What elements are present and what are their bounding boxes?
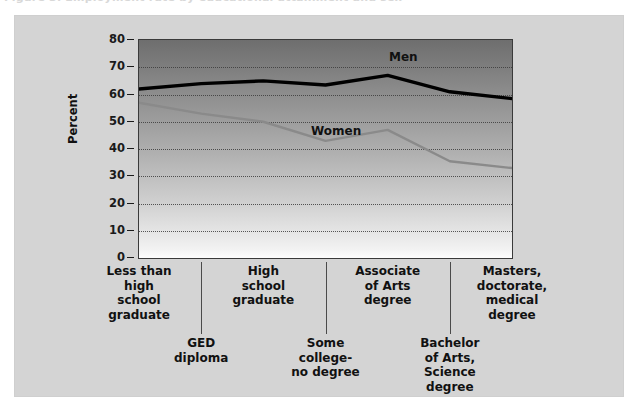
- x-category-line: graduate: [211, 293, 315, 308]
- x-category-line: Some: [274, 336, 378, 351]
- x-category-line: degree: [336, 293, 440, 308]
- y-tick-mark: [127, 66, 134, 67]
- y-tick-mark: [127, 230, 134, 231]
- caption-strip: Figure 3. Employment rate by educational…: [0, 0, 638, 13]
- figure-panel: Percent 80706050403020100 Men Women Less…: [14, 15, 624, 397]
- series-label-women: Women: [311, 124, 361, 138]
- x-category-line: college-: [274, 351, 378, 366]
- series-label-men: Men: [389, 50, 418, 64]
- x-category-line: Masters,: [460, 264, 564, 279]
- y-tick-label: 70: [109, 57, 125, 75]
- x-category-line: high: [87, 279, 191, 294]
- x-category-line: Associate: [336, 264, 440, 279]
- y-tick-label: 80: [109, 30, 125, 48]
- x-category-line: Less than: [87, 264, 191, 279]
- caption-ghost-text: Figure 3. Employment rate by educational…: [4, 0, 402, 4]
- y-tick-mark: [127, 94, 134, 95]
- y-tick-mark: [127, 148, 134, 149]
- x-category-line: doctorate,: [460, 279, 564, 294]
- y-axis-title: Percent: [66, 94, 80, 144]
- x-category-line: degree: [398, 380, 502, 395]
- y-axis: 80706050403020100: [92, 30, 134, 268]
- x-category-line: Bachelor: [398, 336, 502, 351]
- y-tick-mark: [127, 175, 134, 176]
- x-category-label: Highschoolgraduate: [211, 264, 315, 308]
- y-tick-label: 30: [109, 166, 125, 184]
- plot-area: Men Women: [138, 39, 513, 259]
- x-category-label: Less thanhighschoolgraduate: [87, 264, 191, 322]
- chart-plot-wrapper: Percent 80706050403020100 Men Women: [138, 39, 513, 259]
- y-tick-label: 50: [109, 112, 125, 130]
- x-category-label: Associateof Artsdegree: [336, 264, 440, 308]
- y-tick-mark: [127, 257, 134, 258]
- series-line-men: [139, 75, 512, 98]
- y-tick-mark: [127, 203, 134, 204]
- x-category-label: Masters,doctorate,medicaldegree: [460, 264, 564, 322]
- x-category-label: Somecollege-no degree: [274, 336, 378, 380]
- x-category-line: school: [211, 279, 315, 294]
- y-tick-label: 20: [109, 194, 125, 212]
- y-tick-mark: [127, 39, 134, 40]
- x-category-stem: [450, 262, 451, 334]
- y-tick-label: 60: [109, 85, 125, 103]
- y-tick-mark: [127, 121, 134, 122]
- x-axis: Less thanhighschoolgraduateGEDdiplomaHig…: [15, 262, 520, 382]
- x-category-stem: [326, 262, 327, 334]
- x-category-line: medical: [460, 293, 564, 308]
- x-category-line: Science: [398, 365, 502, 380]
- x-category-line: of Arts: [336, 279, 440, 294]
- x-category-line: High: [211, 264, 315, 279]
- x-category-line: degree: [460, 308, 564, 323]
- x-category-line: diploma: [149, 351, 253, 366]
- x-category-line: graduate: [87, 308, 191, 323]
- x-category-label: GEDdiploma: [149, 336, 253, 365]
- x-category-line: no degree: [274, 365, 378, 380]
- x-category-line: GED: [149, 336, 253, 351]
- x-category-line: of Arts,: [398, 351, 502, 366]
- series-canvas: [139, 40, 512, 258]
- x-category-label: Bachelorof Arts,Sciencedegree: [398, 336, 502, 394]
- x-category-stem: [201, 262, 202, 334]
- y-tick-label: 10: [109, 221, 125, 239]
- y-tick-label: 40: [109, 139, 125, 157]
- x-category-line: school: [87, 293, 191, 308]
